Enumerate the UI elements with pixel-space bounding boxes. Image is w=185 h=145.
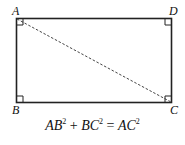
exponent-ac: 2 [136,117,140,126]
pythagorean-equation: AB2 + BC2 = AC2 [0,118,185,134]
term-ab: AB [45,118,62,133]
vertex-label-c: C [170,103,179,117]
vertex-label-a: A [11,4,20,18]
term-bc: BC [81,118,99,133]
equals-sign: = [107,118,115,133]
vertex-label-d: D [168,4,178,18]
right-angle-mark-d [165,19,171,25]
diagonal-ac [17,19,171,102]
vertex-label-b: B [12,103,20,117]
exponent-bc: 2 [99,117,103,126]
term-ac: AC [118,118,136,133]
plus-sign: + [70,118,78,133]
exponent-ab: 2 [62,117,66,126]
right-angle-mark-b [17,96,23,102]
